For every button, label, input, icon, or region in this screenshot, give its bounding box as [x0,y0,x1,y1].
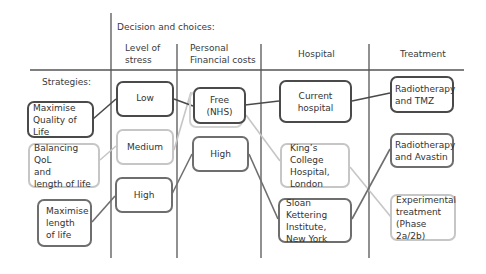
column-header-stress: Level of stress [125,42,160,66]
strategy-maximise-length-of-life: Maximise length of life [37,199,92,247]
cost-high: High [192,136,249,172]
stress-low: Low [116,81,174,117]
strategy-maximise-quality-of-life: Maximise Quality of Life [27,101,94,138]
hospital-sloan-kettering: Sloan Kettering Institute, New York [278,198,352,243]
hospital-kings-college: King’s College Hospital, London [280,143,350,188]
column-header-hospital: Hospital [298,48,335,60]
diagram-title: Decision and choices: [117,21,215,33]
stress-medium: Medium [116,129,174,165]
column-header-cost: Personal Financial costs [190,42,256,66]
treatment-experimental: Experimental treatment (Phase 2a/2b) [390,194,456,241]
treatment-radiotherapy-tmz: Radiotherapy and TMZ [390,76,454,113]
hospital-current: Current hospital [279,80,352,123]
strategies-label: Strategies: [42,76,91,88]
decision-diagram: Decision and choices: Level of stress Pe… [0,0,486,274]
strategy-balancing: Balancing QoL and length of life [28,143,100,188]
treatment-radiotherapy-avastin: Radiotherapy and Avastin [390,133,454,168]
cost-free-nhs: Free (NHS) [193,87,246,124]
column-header-treatment: Treatment [400,48,446,60]
stress-high: High [115,177,173,213]
